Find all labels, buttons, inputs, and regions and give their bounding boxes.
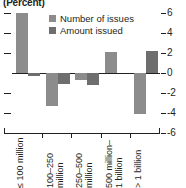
plot-area — [12, 13, 160, 133]
y-tick-right — [161, 33, 166, 34]
x-axis-label: 100–250million — [42, 140, 72, 188]
x-axis-label: > 1 billion — [130, 140, 160, 188]
y-tick-label: 6 — [167, 8, 173, 18]
bar — [46, 73, 58, 106]
x-axis-cap-right — [159, 128, 160, 133]
bar — [134, 73, 146, 114]
bar-groups — [12, 13, 160, 133]
bar-group — [71, 13, 101, 133]
x-axis-label: 250–500million — [71, 140, 101, 188]
y-tick-right — [161, 133, 166, 134]
bar — [146, 51, 158, 73]
y-tick-left — [4, 93, 11, 94]
x-label-cell: ≤ 100 million — [12, 140, 42, 188]
bar — [58, 73, 70, 84]
y-tick-left — [4, 113, 11, 114]
x-label-cell: > 1 billion — [130, 140, 160, 188]
bar-group — [42, 13, 72, 133]
y-tick-right — [161, 13, 166, 14]
bar — [16, 13, 28, 73]
bar — [28, 73, 40, 76]
x-tick — [101, 133, 102, 138]
x-label-cell: 100–250million — [42, 140, 72, 188]
x-axis-labels: ≤ 100 million100–250million250–500millio… — [12, 140, 160, 188]
bar — [105, 52, 117, 73]
bar — [87, 73, 99, 85]
x-axis-line — [4, 133, 160, 134]
x-axis-label: ≤ 100 million — [12, 140, 42, 188]
y-tick-right — [161, 73, 166, 74]
x-axis-cap-left — [4, 128, 5, 133]
bar-group — [101, 13, 131, 133]
bar-group — [12, 13, 42, 133]
y-tick-right — [161, 93, 166, 94]
y-tick-label: 2 — [167, 48, 173, 58]
y-tick-right — [161, 113, 166, 114]
x-tick — [130, 133, 131, 138]
y-tick-label: -4 — [167, 108, 176, 118]
bar — [75, 73, 87, 80]
x-label-cell: 500 million–1 billion — [101, 140, 131, 188]
x-tick — [42, 133, 43, 138]
bar-group — [130, 13, 160, 133]
y-tick-label: 0 — [167, 68, 173, 78]
y-tick-right — [161, 53, 166, 54]
y-tick-left — [4, 13, 11, 14]
y-tick-label: -2 — [167, 88, 176, 98]
x-label-cell: 250–500million — [71, 140, 101, 188]
chart-container: (Percent) Number of issues Amount issued… — [0, 0, 186, 188]
y-tick-label: -6 — [167, 128, 176, 138]
y-tick-left — [4, 33, 11, 34]
y-tick-label: 4 — [167, 28, 173, 38]
x-tick — [71, 133, 72, 138]
x-axis-label: 500 million–1 billion — [101, 140, 131, 188]
chart-title: (Percent) — [3, 0, 45, 8]
y-tick-left — [4, 53, 11, 54]
